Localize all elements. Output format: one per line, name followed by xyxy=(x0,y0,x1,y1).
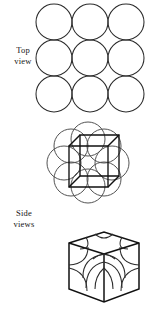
cutaway-edge-top-right xyxy=(104,243,139,254)
center-sphere-arc-left xyxy=(83,254,104,278)
octant-arc-right-inner xyxy=(104,268,113,289)
top-view-circle xyxy=(36,40,72,76)
octant-arc-top-right xyxy=(120,237,128,249)
cutaway-outline xyxy=(69,232,139,302)
octant-arc-top-far xyxy=(95,234,113,238)
unit-cell-sphere xyxy=(87,162,121,196)
octant-arc-left-inner xyxy=(95,268,104,289)
unit-cell-sphere xyxy=(87,129,121,163)
top-view-circle xyxy=(36,4,72,40)
crystal-structure-figure: Top view Side views xyxy=(0,0,155,312)
octant-arc-left-center xyxy=(86,262,104,288)
cube-edge xyxy=(108,135,119,146)
octant-arc-right-upper xyxy=(120,247,139,265)
side-view-spheres-circles xyxy=(47,122,129,203)
octant-arc-right-lower xyxy=(121,268,139,291)
side-views-label: Side views xyxy=(6,208,42,229)
cube-edge xyxy=(69,135,80,146)
center-sphere-arc-right xyxy=(104,254,125,278)
cube-back-face xyxy=(80,135,119,176)
unit-cell-sphere xyxy=(95,146,129,180)
octant-arc-top-near xyxy=(93,255,115,260)
unit-cell-sphere xyxy=(54,129,88,163)
top-view-label: Top view xyxy=(7,45,39,66)
unit-cell-sphere xyxy=(54,162,88,196)
top-view-circle xyxy=(108,40,144,76)
top-view-circle xyxy=(36,76,72,112)
unit-cell-cube-wireframe xyxy=(69,135,119,187)
octant-arc-left-lower xyxy=(69,268,87,291)
octant-arc-left-upper xyxy=(69,247,88,265)
unit-cell-sphere xyxy=(47,146,81,180)
top-view-circle-grid xyxy=(36,4,144,112)
cube-edge xyxy=(108,176,119,187)
top-view-circle xyxy=(108,76,144,112)
top-view-circle xyxy=(72,76,108,112)
cutaway-edge-top-left xyxy=(69,243,104,254)
top-view-circle xyxy=(108,4,144,40)
octant-arc-right-center xyxy=(104,262,122,288)
unit-cell-sphere xyxy=(71,122,105,156)
side-view-cutaway xyxy=(69,232,139,302)
top-view-circle xyxy=(72,40,108,76)
unit-cell-sphere xyxy=(71,169,105,203)
top-view-circle xyxy=(72,4,108,40)
cube-edge xyxy=(69,176,80,187)
cube-front-face xyxy=(69,146,108,187)
octant-arc-top-left xyxy=(80,237,88,249)
